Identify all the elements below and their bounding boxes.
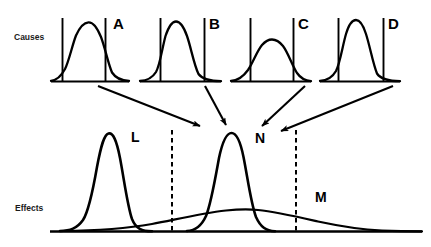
figure-canvas: Causes A B C bbox=[0, 0, 431, 247]
cause-panel-a: A bbox=[51, 15, 129, 82]
panel-d-label: D bbox=[388, 15, 399, 32]
panel-a-label: A bbox=[113, 15, 124, 32]
arrow-a-to-n bbox=[98, 86, 200, 126]
arrow-group bbox=[98, 86, 393, 131]
arrow-c-to-n bbox=[262, 86, 305, 126]
cause-panel-c: C bbox=[231, 15, 311, 82]
causes-effects-figure: Causes A B C bbox=[0, 0, 431, 247]
effect-label-l: L bbox=[131, 129, 140, 145]
effect-label-n: N bbox=[255, 130, 265, 146]
cause-panel-d: D bbox=[320, 15, 400, 82]
effect-curve-l bbox=[60, 133, 152, 231]
panel-b-label: B bbox=[209, 15, 220, 32]
causes-row-label: Causes bbox=[14, 32, 45, 42]
effect-curve-m bbox=[62, 209, 422, 231]
panel-c-label: C bbox=[298, 15, 309, 32]
effects-row-label: Effects bbox=[15, 203, 44, 213]
cause-panel-b: B bbox=[140, 15, 221, 82]
panel-c-curve bbox=[231, 40, 311, 82]
effect-label-m: M bbox=[315, 189, 327, 205]
effect-curve-n bbox=[187, 133, 275, 231]
arrow-b-to-n bbox=[205, 86, 226, 125]
